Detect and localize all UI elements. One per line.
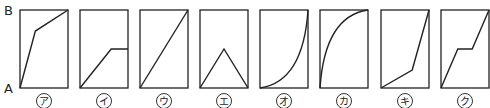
graph-option-3 bbox=[200, 10, 248, 88]
option-label: カ bbox=[336, 93, 352, 108]
graph-option-5 bbox=[320, 10, 368, 88]
graph-line bbox=[80, 49, 128, 88]
option-label: ク bbox=[457, 93, 473, 108]
graph-option-0 bbox=[20, 10, 68, 88]
graph-option-4 bbox=[260, 10, 308, 88]
graph-frame bbox=[20, 10, 68, 88]
graph-option-1 bbox=[80, 10, 128, 88]
graph-line bbox=[441, 10, 489, 88]
graph-option-2 bbox=[140, 10, 188, 88]
graph-frame bbox=[381, 10, 429, 88]
graph-line bbox=[260, 10, 308, 88]
graph-line bbox=[320, 10, 368, 88]
graph-option-7 bbox=[441, 10, 489, 88]
graph-options-figure bbox=[0, 0, 490, 108]
graph-line bbox=[381, 10, 429, 88]
graph-line bbox=[20, 10, 68, 88]
graph-option-6 bbox=[381, 10, 429, 88]
option-label: キ bbox=[397, 93, 413, 108]
option-label: ア bbox=[36, 93, 52, 108]
option-label: ウ bbox=[156, 93, 172, 108]
option-label: エ bbox=[216, 93, 232, 108]
graph-line bbox=[200, 49, 248, 88]
option-label: イ bbox=[96, 93, 112, 108]
option-label: オ bbox=[276, 93, 292, 108]
graph-line bbox=[140, 10, 188, 88]
